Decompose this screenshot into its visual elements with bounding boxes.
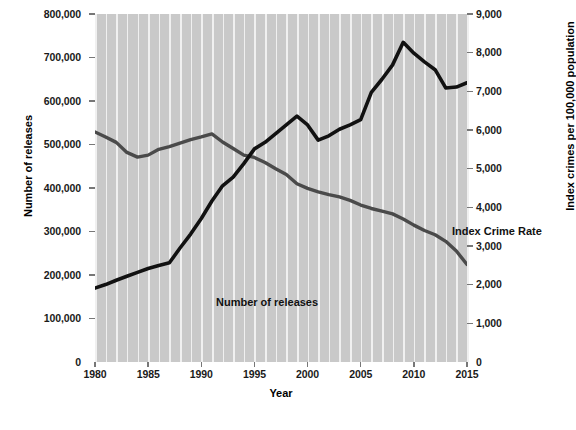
y-tick-left-4 <box>89 187 95 188</box>
y-tick-right-8 <box>467 52 473 53</box>
y-tick-left-5 <box>89 144 95 145</box>
line-index-crime-rate <box>95 132 467 265</box>
y-tick-left-8 <box>89 13 95 14</box>
y-tick-left-3 <box>89 231 95 232</box>
y-tick-label-right-1: 1,000 <box>476 317 536 329</box>
y-tick-label-left-7: 700,000 <box>0 51 81 63</box>
y-tick-right-7 <box>467 91 473 92</box>
x-tick-1985 <box>147 362 148 367</box>
x-tick-2010 <box>413 362 414 367</box>
y-tick-label-right-2: 2,000 <box>476 278 536 290</box>
y-tick-label-right-3: 3,000 <box>476 240 536 252</box>
y-tick-right-1 <box>467 323 473 324</box>
x-axis-title: Year <box>95 387 467 399</box>
y-tick-right-5 <box>467 168 473 169</box>
x-tick-label-2010: 2010 <box>384 368 444 380</box>
y-tick-label-right-6: 6,000 <box>476 124 536 136</box>
y-tick-right-6 <box>467 129 473 130</box>
x-tick-1980 <box>94 362 95 367</box>
y-tick-right-4 <box>467 207 473 208</box>
x-tick-2000 <box>307 362 308 367</box>
y-tick-label-left-1: 100,000 <box>0 312 81 324</box>
x-tick-label-2000: 2000 <box>278 368 338 380</box>
y-tick-left-6 <box>89 100 95 101</box>
x-tick-label-2015: 2015 <box>437 368 497 380</box>
y-tick-label-left-2: 200,000 <box>0 269 81 281</box>
y-tick-label-left-4: 400,000 <box>0 182 81 194</box>
series-label-number-of-releases: Number of releases <box>216 296 318 308</box>
y-axis-title-left: Number of releases <box>22 76 34 256</box>
x-tick-1990 <box>201 362 202 367</box>
x-tick-label-1990: 1990 <box>171 368 231 380</box>
plot-area: Number of releases Index Crime Rate <box>95 14 467 362</box>
y-tick-right-3 <box>467 245 473 246</box>
series-label-index-crime-rate: Index Crime Rate <box>452 225 542 237</box>
x-tick-label-1980: 1980 <box>65 368 125 380</box>
series-lines <box>95 14 467 362</box>
x-tick-label-1985: 1985 <box>118 368 178 380</box>
y-tick-label-left-0: 0 <box>0 356 81 368</box>
y-tick-label-right-0: 0 <box>476 356 536 368</box>
gridline-2015 <box>467 14 469 362</box>
x-tick-1995 <box>254 362 255 367</box>
y-tick-label-right-9: 9,000 <box>476 8 536 20</box>
x-tick-label-1995: 1995 <box>224 368 284 380</box>
y-tick-right-2 <box>467 284 473 285</box>
x-tick-2005 <box>360 362 361 367</box>
y-tick-label-left-8: 800,000 <box>0 8 81 20</box>
y-tick-right-9 <box>467 13 473 14</box>
y-tick-label-left-6: 600,000 <box>0 95 81 107</box>
y-tick-label-right-4: 4,000 <box>476 201 536 213</box>
y-tick-label-right-5: 5,000 <box>476 162 536 174</box>
x-tick-2015 <box>466 362 467 367</box>
x-tick-label-2005: 2005 <box>331 368 391 380</box>
y-tick-label-right-7: 7,000 <box>476 85 536 97</box>
y-tick-label-left-5: 500,000 <box>0 138 81 150</box>
y-tick-label-left-3: 300,000 <box>0 225 81 237</box>
y-tick-label-right-8: 8,000 <box>476 46 536 58</box>
line-number-of-releases <box>95 42 467 288</box>
y-tick-left-2 <box>89 274 95 275</box>
y-axis-title-right: Index crimes per 100,000 population <box>564 0 576 256</box>
y-tick-left-1 <box>89 318 95 319</box>
y-tick-left-7 <box>89 57 95 58</box>
